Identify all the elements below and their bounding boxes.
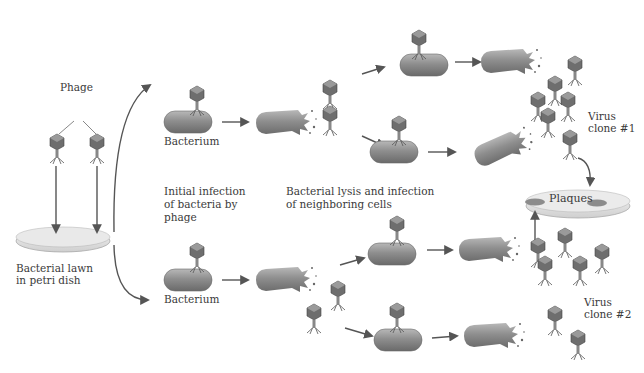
phage-icon [573, 256, 587, 286]
lysed-bacterium-icon [464, 323, 525, 348]
lysed-bacterium-icon [256, 110, 317, 135]
petri-dish-lawn [16, 227, 110, 252]
bacterium-icon [368, 243, 416, 265]
bacterium-icon [164, 111, 212, 133]
lawn-label-2: in petri dish [16, 274, 81, 286]
plaques-label: Plaques [549, 193, 593, 205]
phage-icon [307, 304, 321, 334]
phage-icon [323, 80, 337, 110]
phage-icon [390, 303, 404, 333]
phage-icon [561, 92, 575, 122]
lysis-label-1: Bacterial lysis and infection [286, 185, 434, 197]
phage-icon [548, 76, 562, 106]
phage-icon [548, 306, 562, 336]
phage-icon [190, 243, 204, 273]
bacterium-label-bottom: Bacterium [164, 293, 219, 305]
phage-icon [595, 244, 609, 274]
phage-plaque-diagram: Phage Bacterial lawn in petri dish Bacte… [0, 0, 644, 373]
virus-clone-2-label-2: clone #2 [584, 308, 631, 320]
lawn-label-1: Bacterial lawn [16, 262, 93, 274]
initial-infection-label-2: of bacteria by [164, 198, 237, 210]
phage-icon [331, 281, 345, 311]
phage-icon [90, 134, 104, 164]
phage-icon [390, 216, 404, 246]
bacterium-label-top: Bacterium [164, 135, 219, 147]
phage-icon [538, 256, 552, 286]
virus-clone-1-label-1: Virus [588, 110, 616, 122]
lysed-bacterium-icon [256, 267, 317, 292]
virus-clone-1-label-2: clone #1 [588, 122, 635, 134]
phage-icon [563, 130, 577, 160]
bacterium-icon [164, 269, 212, 291]
lysis-label-2: of neighboring cells [286, 198, 392, 210]
lysed-bacterium-icon [459, 237, 520, 262]
lysed-bacterium-icon [481, 49, 542, 74]
bacterium-icon [370, 141, 418, 163]
phage-icon [568, 56, 582, 86]
phage-icon [541, 108, 555, 138]
bacterium-icon [374, 329, 422, 351]
phage-label: Phage [60, 81, 93, 93]
initial-infection-label-1: Initial infection [164, 185, 246, 197]
virus-clone-2-label-1: Virus [584, 296, 612, 308]
initial-infection-label-3: phage [164, 211, 197, 223]
phage-icon [50, 134, 64, 164]
phage-icon [558, 228, 572, 258]
plaque [525, 199, 545, 206]
phage-icon [323, 106, 337, 136]
phage-icon [571, 330, 585, 360]
lysed-bacterium-icon [471, 125, 537, 169]
